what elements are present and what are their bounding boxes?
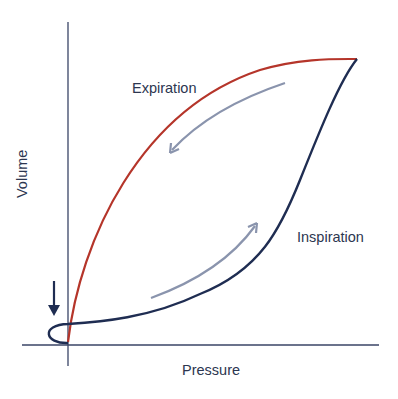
x-axis-label: Pressure	[182, 362, 240, 378]
inspiration-direction-arrow	[151, 226, 255, 298]
inspiration-curve	[49, 59, 357, 343]
inspiration-label: Inspiration	[297, 229, 364, 245]
expiration-label: Expiration	[132, 80, 196, 96]
expiration-curve	[68, 59, 357, 342]
pressure-volume-diagram	[0, 0, 398, 399]
y-axis-label: Volume	[14, 150, 30, 198]
down-arrowhead-icon	[48, 305, 60, 316]
